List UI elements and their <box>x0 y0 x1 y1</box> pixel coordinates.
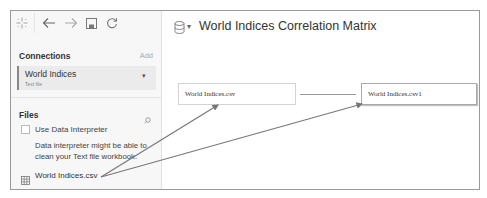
add-connection-link[interactable]: Add <box>140 51 153 60</box>
table-grid-icon <box>21 171 30 180</box>
connection-name: World Indices <box>25 69 76 79</box>
table-world-indices-csv1[interactable]: World Indices.csv1 <box>361 83 477 105</box>
search-icon[interactable] <box>144 110 151 117</box>
data-source-canvas: ▾ World Indices Correlation Matrix World… <box>162 11 479 189</box>
relationship-line[interactable] <box>300 94 356 95</box>
connection-item-world-indices[interactable]: World Indices Text file ▾ <box>17 66 156 90</box>
refresh-icon[interactable] <box>106 15 118 31</box>
back-icon[interactable] <box>42 15 56 31</box>
database-icon[interactable] <box>174 20 185 33</box>
tableau-data-source-window: Connections Add World Indices Text file … <box>10 10 480 190</box>
logo-icon[interactable] <box>16 15 28 31</box>
datasource-title[interactable]: World Indices Correlation Matrix <box>199 19 377 33</box>
sidebar: Connections Add World Indices Text file … <box>11 11 162 189</box>
toolbar-separator <box>34 13 35 33</box>
datasource-caret-icon[interactable]: ▾ <box>187 22 191 31</box>
connection-type: Text file <box>25 81 42 87</box>
use-data-interpreter-option[interactable]: Use Data Interpreter <box>21 125 107 134</box>
forward-icon[interactable] <box>64 15 78 31</box>
use-data-interpreter-label: Use Data Interpreter <box>35 125 107 134</box>
section-divider <box>11 97 162 98</box>
table-world-indices-csv[interactable]: World Indices.csv <box>178 83 296 105</box>
connections-heading: Connections <box>19 51 70 61</box>
file-name: World Indices.csv <box>35 171 98 180</box>
datasource-title-row: ▾ World Indices Correlation Matrix <box>174 19 377 33</box>
use-data-interpreter-checkbox[interactable] <box>21 125 30 134</box>
interpreter-hint: Data interpreter might be able to clean … <box>35 140 160 162</box>
save-icon[interactable] <box>86 15 97 31</box>
toolbar <box>11 11 162 35</box>
chevron-down-icon[interactable]: ▾ <box>142 72 146 80</box>
files-heading: Files <box>19 110 38 120</box>
file-item-world-indices-csv[interactable]: World Indices.csv <box>21 171 98 180</box>
